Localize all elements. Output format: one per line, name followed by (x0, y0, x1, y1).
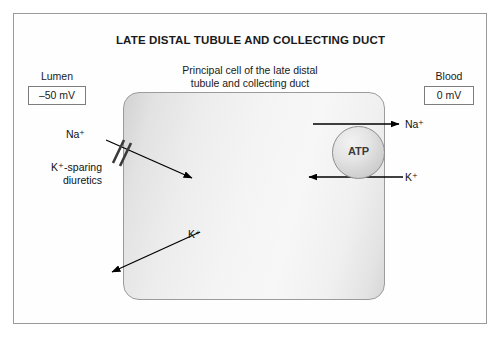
blood-potassium-label: K⁺ (405, 171, 418, 183)
cell-caption-line-2: tubule and collecting duct (160, 77, 340, 90)
cell-caption-line-1: Principal cell of the late distal (160, 64, 340, 77)
lumen-label: Lumen (28, 70, 86, 82)
blood-voltage-box: 0 mV (424, 86, 474, 105)
principal-cell-body (123, 92, 385, 300)
page-title: LATE DISTAL TUBULE AND COLLECTING DUCT (0, 34, 501, 46)
lumen-potassium-label: K⁺ (188, 228, 201, 240)
k-sparing-diuretics-label: K⁺-sparing diuretics (30, 161, 102, 186)
lumen-voltage-box: –50 mV (28, 86, 86, 105)
blood-label: Blood (424, 70, 474, 82)
cell-caption: Principal cell of the late distal tubule… (160, 64, 340, 90)
diuretics-line-1: K⁺-sparing (30, 161, 102, 174)
diagram-canvas: LATE DISTAL TUBULE AND COLLECTING DUCT P… (0, 0, 501, 338)
blood-sodium-label: Na⁺ (405, 118, 424, 130)
diuretics-line-2: diuretics (30, 174, 102, 187)
atp-pump-label: ATP (332, 145, 385, 157)
lumen-sodium-label: Na⁺ (66, 128, 85, 140)
